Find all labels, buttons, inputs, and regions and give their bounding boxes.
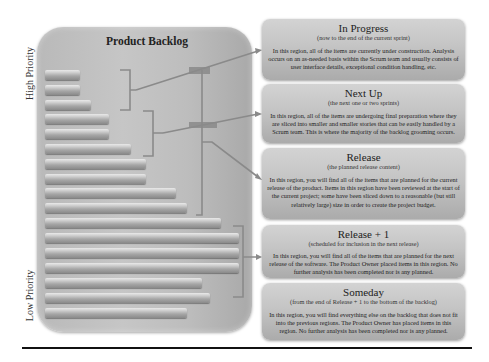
backlog-item-bar bbox=[45, 278, 202, 288]
backlog-item-bar bbox=[45, 159, 146, 169]
region-title: Release bbox=[267, 151, 460, 163]
arrow-release-icon bbox=[255, 173, 262, 180]
region-description: In this region, all of the items are und… bbox=[267, 112, 460, 137]
backlog-item-bar bbox=[45, 129, 109, 139]
backlog-item-bar bbox=[45, 233, 239, 243]
region-title: In Progress bbox=[267, 22, 460, 34]
backlog-item-bar bbox=[45, 144, 131, 154]
region-description: In this region, you will find all of the… bbox=[267, 252, 460, 277]
arrow-next-up-icon bbox=[255, 111, 262, 117]
backlog-item-bar bbox=[45, 248, 239, 258]
backlog-title: Product Backlog bbox=[37, 35, 257, 47]
backlog-item-bar bbox=[45, 100, 91, 110]
region-next-up: Next Up (the next one or two sprints) In… bbox=[262, 84, 465, 143]
region-description: In this region, you will find everything… bbox=[267, 311, 460, 336]
backlog-item-bar bbox=[45, 114, 109, 124]
region-subtitle: (the next one or two sprints) bbox=[267, 99, 460, 107]
backlog-item-bar bbox=[45, 293, 210, 303]
region-title: Next Up bbox=[267, 87, 460, 99]
backlog-item-bar bbox=[45, 203, 187, 213]
backlog-item-bar bbox=[45, 174, 146, 184]
region-subtitle: (scheduled for inclusion in the next rel… bbox=[267, 240, 460, 248]
region-title: Someday bbox=[267, 286, 460, 298]
region-someday: Someday (from the end of Release + 1 to … bbox=[262, 283, 465, 340]
backlog-item-bar bbox=[45, 218, 221, 228]
backlog-item-bar bbox=[45, 263, 239, 273]
backlog-item-bar bbox=[45, 85, 80, 95]
region-in-progress: In Progress (now to the end of the curre… bbox=[262, 19, 465, 80]
region-subtitle: (the planned release content) bbox=[267, 163, 460, 171]
region-release: Release (the planned release content) In… bbox=[262, 148, 465, 219]
region-release-plus-1: Release + 1 (scheduled for inclusion in … bbox=[262, 225, 465, 278]
region-subtitle: (now to the end of the current sprint) bbox=[267, 34, 460, 42]
region-subtitle: (from the end of Release + 1 to the bott… bbox=[267, 298, 460, 306]
backlog-item-bar bbox=[45, 70, 80, 80]
high-priority-label: High Priority bbox=[24, 41, 35, 107]
low-priority-label: Low Priority bbox=[24, 263, 35, 329]
backlog-item-bar bbox=[45, 308, 187, 318]
arrow-in-progress-icon bbox=[255, 48, 262, 54]
region-description: In this region, all of the items are cur… bbox=[267, 47, 460, 72]
backlog-item-bar bbox=[45, 188, 176, 198]
region-title: Release + 1 bbox=[267, 228, 460, 240]
bottom-divider bbox=[22, 347, 472, 349]
region-description: In this region, you will find all of the… bbox=[267, 176, 460, 209]
